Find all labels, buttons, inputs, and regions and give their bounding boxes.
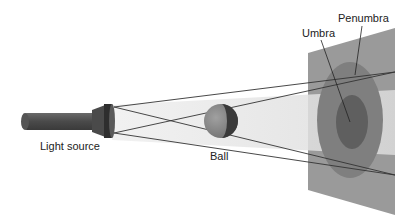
umbra-region bbox=[336, 95, 368, 149]
flashlight bbox=[21, 104, 115, 138]
shadow-diagram bbox=[0, 0, 415, 223]
ball bbox=[204, 104, 238, 138]
label-penumbra: Penumbra bbox=[338, 12, 389, 24]
label-umbra: Umbra bbox=[302, 27, 335, 39]
label-ball: Ball bbox=[210, 150, 228, 162]
label-light-source: Light source bbox=[40, 140, 100, 152]
